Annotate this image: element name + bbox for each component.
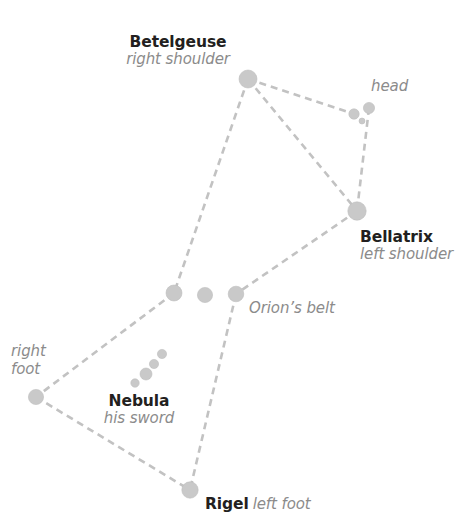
orion-diagram: Betelgeuse right shoulder head Bellatrix…: [0, 0, 458, 518]
label-rigel-role: left foot: [253, 495, 311, 513]
star-belt_left: [228, 286, 244, 302]
star-belt_right: [166, 285, 182, 301]
constellation-lines: [36, 79, 369, 490]
star-head_left: [349, 109, 359, 119]
label-rigel: Rigelleft foot: [205, 495, 311, 514]
constellation-line-betelgeuse-to-belt_right: [174, 79, 248, 293]
label-right-foot-line2: foot: [11, 361, 46, 379]
label-orions-belt: Orion’s belt: [249, 300, 335, 318]
label-head-role: head: [371, 78, 408, 96]
star-rigel: [182, 482, 198, 498]
star-head_right: [363, 102, 374, 113]
label-nebula-name: Nebula: [75, 392, 203, 410]
star-bellatrix: [348, 202, 366, 220]
label-betelgeuse-name: Betelgeuse: [108, 33, 248, 51]
constellation-line-bellatrix-to-belt_left: [236, 211, 357, 294]
label-bellatrix-name: Bellatrix: [360, 228, 453, 246]
label-bellatrix-role: left shoulder: [360, 246, 453, 264]
label-betelgeuse: Betelgeuse right shoulder: [108, 33, 248, 69]
star-points: [28, 70, 374, 498]
star-sword_3: [149, 359, 158, 368]
label-betelgeuse-role: right shoulder: [108, 51, 248, 69]
label-right-foot-line1: right: [11, 343, 46, 361]
label-rigel-name: Rigel: [205, 495, 249, 513]
label-right-foot: right foot: [11, 343, 46, 378]
star-sword_4: [157, 349, 166, 358]
label-head: head: [371, 78, 408, 96]
label-orions-belt-role: Orion’s belt: [249, 300, 335, 318]
star-belt_mid: [197, 287, 212, 302]
constellation-line-betelgeuse-to-bellatrix: [248, 79, 357, 211]
star-betelgeuse: [239, 70, 257, 88]
star-sword_1: [131, 379, 139, 387]
constellation-line-betelgeuse-to-head_left: [248, 79, 354, 114]
label-nebula-role: his sword: [75, 410, 203, 428]
constellation-line-belt_right-to-right_foot: [36, 293, 174, 397]
star-sword_2: [140, 368, 152, 380]
label-nebula: Nebula his sword: [75, 392, 203, 428]
star-head_small: [359, 118, 365, 124]
star-right_foot: [28, 389, 43, 404]
label-bellatrix: Bellatrix left shoulder: [360, 228, 453, 264]
